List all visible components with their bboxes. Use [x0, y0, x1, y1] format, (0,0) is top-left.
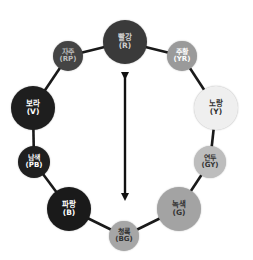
color-node-green-yellow: 연두 (GY)	[194, 146, 226, 178]
color-code: (PB)	[26, 162, 43, 169]
color-node-green: 녹색 (G)	[157, 187, 201, 231]
color-node-red: 빨강 (R)	[103, 20, 147, 64]
color-code: (G)	[172, 209, 185, 217]
color-node-blue: 파랑 (B)	[47, 187, 91, 231]
color-node-yellow: 노랑 (Y)	[194, 86, 238, 130]
color-wheel-diagram: 빨강 (R) 주황 (YR) 노랑 (Y) 연두 (GY) 녹색 (G) 청록 …	[0, 0, 253, 260]
color-code: (RP)	[60, 56, 77, 63]
color-code: (V)	[27, 108, 40, 116]
color-node-blue-green: 청록 (BG)	[109, 221, 139, 251]
color-node-purple-blue: 남색 (PB)	[18, 146, 50, 178]
color-node-red-purple: 자주 (RP)	[53, 41, 83, 71]
color-node-violet: 보라 (V)	[11, 86, 55, 130]
color-code: (BG)	[115, 236, 132, 243]
color-code: (GY)	[201, 162, 218, 169]
color-code: (R)	[119, 42, 132, 50]
color-code: (B)	[63, 209, 76, 217]
color-code: (YR)	[174, 56, 191, 63]
color-node-yellow-red: 주황 (YR)	[167, 41, 197, 71]
color-code: (Y)	[210, 108, 222, 116]
